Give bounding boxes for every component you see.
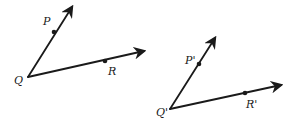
angle-PQR: PRQ (14, 7, 144, 87)
label-Qprime: Q' (156, 106, 168, 119)
label-R: R (107, 65, 116, 78)
label-Q: Q (14, 74, 23, 87)
congruent-angles-diagram: PRQP'R'Q' (0, 0, 304, 121)
point-R (103, 59, 108, 64)
point-Pprime (197, 62, 202, 67)
point-P (52, 30, 57, 35)
point-Rprime (243, 91, 248, 96)
label-Rprime: R' (245, 98, 257, 111)
ray-QprimePprime (170, 38, 215, 109)
angle-PprimeQprimeRprime: P'R'Q' (156, 38, 281, 119)
label-P: P (42, 15, 51, 28)
label-Pprime: P' (184, 54, 195, 67)
ray-QR (28, 51, 144, 77)
ray-QprimeRprime (170, 85, 281, 109)
